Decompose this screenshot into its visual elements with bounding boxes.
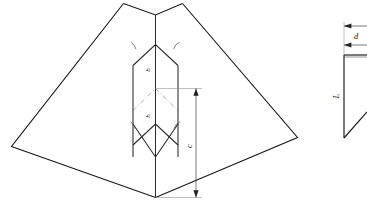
diagram-canvas: c b b d L — [0, 0, 367, 207]
right-outer-edge — [156, 4, 298, 198]
dim-d-arrow-lower — [344, 43, 351, 48]
dimension-c-label: c — [184, 144, 194, 148]
dim-c-arrow-top — [193, 89, 198, 96]
leader-mark-top-right — [174, 43, 179, 49]
left-outer-edge — [12, 4, 156, 198]
fold-label-upper: b — [144, 68, 152, 72]
dimension-d-label: d — [354, 31, 359, 41]
fold-label-lower: b — [144, 114, 152, 118]
dim-c-arrow-bottom — [193, 190, 198, 197]
dimension-L-label: L — [331, 93, 341, 99]
lower-chevron-left-leg — [133, 124, 156, 157]
dim-d-arrow-upper — [344, 24, 351, 29]
detail-diagonal-edge — [344, 112, 367, 138]
top-ridge-edge — [124, 4, 183, 16]
main-panel-outline — [12, 4, 298, 198]
lower-chevron-right-leg — [156, 124, 179, 157]
section-detail-view: d L — [331, 22, 367, 138]
technical-diagram-figure: c b b d L — [0, 0, 367, 207]
leader-mark-top-left — [132, 43, 136, 49]
